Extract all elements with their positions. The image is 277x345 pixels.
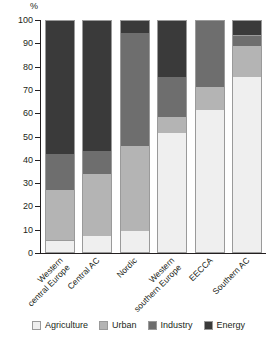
y-tick-label: 10 xyxy=(9,225,33,234)
bar-segment xyxy=(233,77,261,252)
y-tick-label: 90 xyxy=(9,39,33,48)
bar-segment xyxy=(121,231,149,252)
bar-segment xyxy=(233,20,261,35)
y-tick-label: 30 xyxy=(9,179,33,188)
y-tick-label: 70 xyxy=(9,85,33,94)
y-tick xyxy=(35,67,40,68)
bar-segment xyxy=(121,33,149,146)
chart-legend: AgricultureUrbanIndustryEnergy xyxy=(0,320,277,330)
y-tick xyxy=(35,90,40,91)
legend-swatch-industry xyxy=(148,321,157,330)
bar-segment xyxy=(46,20,74,154)
bar-segment xyxy=(83,174,111,236)
y-tick xyxy=(35,183,40,184)
bar-segment xyxy=(46,154,74,190)
bar[interactable] xyxy=(120,20,150,253)
bar-segment xyxy=(83,236,111,252)
x-axis-labels: Westerncentral EuropeCentral ACNordicWes… xyxy=(40,256,270,314)
legend-swatch-agriculture xyxy=(32,321,41,330)
x-tick-label: Southern AC xyxy=(211,256,252,297)
legend-label: Agriculture xyxy=(45,320,88,330)
bar-segment xyxy=(233,46,261,77)
legend-item[interactable]: Agriculture xyxy=(32,320,88,330)
bar-segment xyxy=(83,151,111,174)
y-tick-label: 50 xyxy=(9,132,33,141)
bar-segment xyxy=(83,20,111,151)
x-tick-label-line: EECCA xyxy=(187,256,214,283)
bar-segment xyxy=(158,77,186,117)
bar[interactable] xyxy=(45,20,75,253)
y-tick xyxy=(35,113,40,114)
x-tick-label-line: Central AC xyxy=(66,256,102,292)
bar-segment xyxy=(46,190,74,240)
y-axis-unit-label: % xyxy=(30,1,38,11)
legend-item[interactable]: Urban xyxy=(99,320,137,330)
bar[interactable] xyxy=(232,20,262,253)
x-tick-label: Westerncentral Europe xyxy=(19,256,72,309)
plot-area: 0102030405060708090100 xyxy=(40,20,265,253)
legend-item[interactable]: Industry xyxy=(148,320,193,330)
legend-label: Urban xyxy=(112,320,137,330)
y-tick xyxy=(35,230,40,231)
y-tick xyxy=(35,43,40,44)
bar-group xyxy=(41,20,266,253)
legend-item[interactable]: Energy xyxy=(204,320,246,330)
bar-segment xyxy=(46,240,74,252)
x-tick-label: Central AC xyxy=(66,256,102,292)
y-tick xyxy=(35,160,40,161)
bar-segment xyxy=(121,146,149,231)
x-tick-label-line: Nordic xyxy=(115,256,139,280)
y-tick-label: 0 xyxy=(9,249,33,258)
y-tick-label: 100 xyxy=(9,16,33,25)
bar-segment xyxy=(196,110,224,252)
y-tick-label: 20 xyxy=(9,202,33,211)
bar-segment xyxy=(158,117,186,133)
bar-segment xyxy=(196,20,224,87)
x-tick-label: Nordic xyxy=(115,256,139,280)
bar[interactable] xyxy=(157,20,187,253)
y-tick xyxy=(35,253,40,254)
bar[interactable] xyxy=(82,20,112,253)
y-tick-label: 80 xyxy=(9,62,33,71)
legend-swatch-energy xyxy=(204,321,213,330)
bar-segment xyxy=(158,133,186,252)
y-tick xyxy=(35,20,40,21)
bar-segment xyxy=(233,35,261,45)
legend-label: Industry xyxy=(161,320,193,330)
y-tick-label: 40 xyxy=(9,155,33,164)
bar[interactable] xyxy=(195,20,225,253)
bar-segment xyxy=(121,20,149,33)
y-tick xyxy=(35,206,40,207)
x-tick-label: EECCA xyxy=(187,256,214,283)
x-tick-label-line: Southern AC xyxy=(211,256,252,297)
x-axis-line xyxy=(40,253,266,254)
legend-swatch-urban xyxy=(99,321,108,330)
legend-label: Energy xyxy=(217,320,246,330)
y-tick xyxy=(35,137,40,138)
bar-segment xyxy=(158,20,186,77)
bar-segment xyxy=(196,87,224,110)
stacked-bar-chart: % 0102030405060708090100 Westerncentral … xyxy=(0,0,277,345)
y-tick-label: 60 xyxy=(9,109,33,118)
